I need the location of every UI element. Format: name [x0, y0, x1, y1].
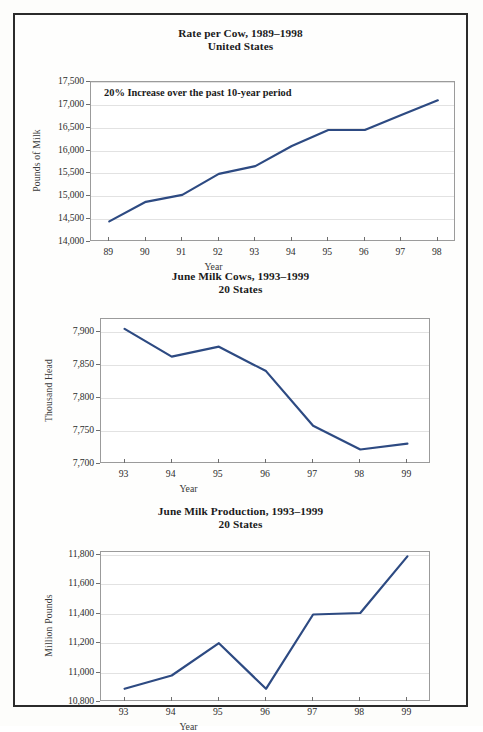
y-tick-mark [96, 463, 100, 464]
x-tick-mark [437, 237, 438, 241]
x-tick-mark [108, 237, 109, 241]
x-tick-mark [145, 237, 146, 241]
plot-area [100, 318, 430, 463]
x-tick-label: 90 [131, 246, 159, 257]
y-tick-mark [86, 241, 90, 242]
y-tick-mark [96, 364, 100, 365]
x-tick-label: 94 [157, 468, 185, 479]
y-tick-mark [86, 127, 90, 128]
y-tick-mark [96, 397, 100, 398]
x-tick-label: 96 [350, 246, 378, 257]
y-tick-label: 16,500 [42, 121, 84, 132]
data-series-line [91, 82, 456, 242]
x-tick-mark [400, 237, 401, 241]
x-tick-mark [291, 237, 292, 241]
y-tick-label: 11,000 [54, 666, 94, 677]
chart-area-june-milk-production: Million Pounds10,80011,00011,20011,40011… [15, 531, 466, 721]
y-tick-label: 7,800 [54, 391, 94, 402]
figure-title: June Milk Cows, 1993–1999 20 States [15, 270, 466, 296]
y-tick-mark [96, 583, 100, 584]
x-tick-label: 93 [110, 706, 138, 717]
y-tick-mark [86, 104, 90, 105]
x-tick-label: 97 [298, 706, 326, 717]
x-tick-mark [359, 697, 360, 701]
x-tick-mark [181, 237, 182, 241]
x-axis-title: Year [24, 721, 354, 732]
plot-area [100, 551, 430, 701]
figure-title-line2: 20 States [15, 283, 466, 296]
x-tick-mark [124, 459, 125, 463]
figure-title-line1: Rate per Cow, 1989–1998 [178, 27, 302, 39]
y-tick-label: 11,200 [54, 636, 94, 647]
x-tick-label: 97 [386, 246, 414, 257]
y-tick-mark [96, 672, 100, 673]
x-tick-label: 99 [392, 706, 420, 717]
figure-rate-per-cow: Rate per Cow, 1989–1998 United States Po… [15, 27, 466, 268]
x-tick-label: 94 [277, 246, 305, 257]
figure-title-line2: 20 States [15, 518, 466, 531]
x-tick-mark [265, 459, 266, 463]
x-tick-mark [312, 459, 313, 463]
x-tick-label: 93 [110, 468, 138, 479]
y-tick-label: 11,800 [54, 548, 94, 559]
x-tick-mark [254, 237, 255, 241]
y-tick-mark [86, 150, 90, 151]
y-tick-label: 11,600 [54, 577, 94, 588]
x-tick-mark [406, 697, 407, 701]
y-tick-label: 14,500 [42, 212, 84, 223]
x-tick-label: 98 [345, 706, 373, 717]
y-axis-title: Pounds of Milk [30, 130, 41, 193]
y-tick-label: 10,800 [54, 695, 94, 706]
x-tick-mark [171, 697, 172, 701]
figure-june-milk-cows: June Milk Cows, 1993–1999 20 States Thou… [15, 270, 466, 496]
figure-title-line2: United States [15, 40, 466, 53]
y-tick-label: 11,400 [54, 607, 94, 618]
x-tick-mark [218, 697, 219, 701]
x-tick-label: 98 [423, 246, 451, 257]
x-tick-label: 96 [251, 468, 279, 479]
x-tick-mark [171, 459, 172, 463]
y-tick-mark [96, 613, 100, 614]
y-tick-mark [86, 195, 90, 196]
x-axis-title: Year [24, 483, 354, 494]
y-tick-mark [86, 218, 90, 219]
figure-title: June Milk Production, 1993–1999 20 State… [15, 505, 466, 531]
x-tick-label: 99 [392, 468, 420, 479]
x-tick-mark [265, 697, 266, 701]
x-tick-label: 94 [157, 706, 185, 717]
x-tick-mark [364, 237, 365, 241]
figure-title: Rate per Cow, 1989–1998 United States [15, 27, 466, 53]
x-tick-mark [218, 237, 219, 241]
y-tick-label: 7,700 [54, 457, 94, 468]
x-tick-mark [218, 459, 219, 463]
x-tick-label: 89 [94, 246, 122, 257]
x-tick-mark [312, 697, 313, 701]
chart-annotation: 20% Increase over the past 10-year perio… [104, 87, 292, 98]
x-tick-label: 95 [313, 246, 341, 257]
x-tick-label: 96 [251, 706, 279, 717]
x-tick-label: 91 [167, 246, 195, 257]
chart-area-rate-per-cow: Pounds of Milk14,00014,50015,00015,50016… [15, 53, 466, 268]
data-series-line [101, 552, 431, 702]
x-tick-label: 93 [240, 246, 268, 257]
y-tick-label: 15,500 [42, 166, 84, 177]
x-tick-label: 95 [204, 468, 232, 479]
y-tick-mark [96, 430, 100, 431]
y-tick-label: 7,900 [54, 325, 94, 336]
figure-june-milk-production: June Milk Production, 1993–1999 20 State… [15, 505, 466, 721]
y-tick-label: 7,750 [54, 424, 94, 435]
y-tick-mark [96, 642, 100, 643]
y-tick-mark [96, 701, 100, 702]
x-tick-mark [406, 459, 407, 463]
y-tick-mark [96, 554, 100, 555]
y-axis-title: Million Pounds [43, 595, 54, 657]
x-tick-label: 98 [345, 468, 373, 479]
plot-area [90, 81, 455, 241]
chart-area-june-milk-cows: Thousand Head7,7007,7507,8007,8507,90093… [15, 296, 466, 496]
y-tick-mark [96, 331, 100, 332]
figure-title-line1: June Milk Cows, 1993–1999 [172, 270, 309, 282]
x-tick-mark [327, 237, 328, 241]
x-tick-label: 92 [204, 246, 232, 257]
y-tick-mark [86, 81, 90, 82]
y-axis-title: Thousand Head [43, 359, 54, 422]
